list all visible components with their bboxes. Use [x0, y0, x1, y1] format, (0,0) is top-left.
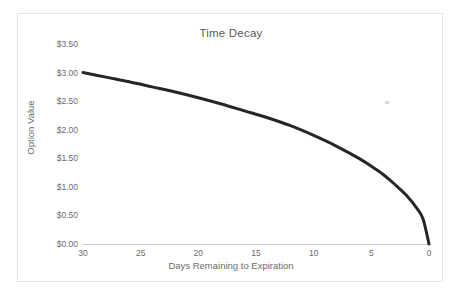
plot-area: $0.00$0.50$1.00$1.50$2.00$2.50$3.00$3.50…	[18, 14, 444, 283]
stray-artifact-mark	[385, 101, 389, 104]
time-decay-curve	[18, 14, 444, 283]
chart-card: Time Decay $0.00$0.50$1.00$1.50$2.00$2.5…	[17, 13, 443, 282]
